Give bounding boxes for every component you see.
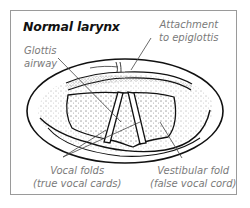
- larynx-illustration: [0, 0, 250, 208]
